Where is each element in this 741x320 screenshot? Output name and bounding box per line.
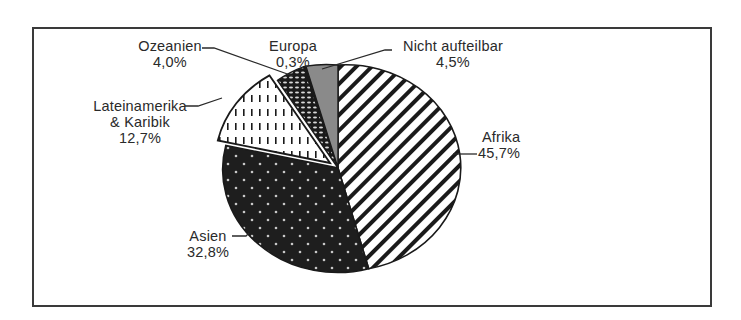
label-lateinamerika-line2: & Karibik xyxy=(88,114,192,130)
label-nicht-value: 4,5% xyxy=(388,54,518,70)
label-nicht-name: Nicht aufteilbar xyxy=(388,38,518,54)
label-afrika-value: 45,7% xyxy=(478,145,538,161)
label-lateinamerika-line1: Lateinamerika xyxy=(88,98,192,114)
label-asien: Asien 32,8% xyxy=(180,228,236,260)
label-ozeanien: Ozeanien 4,0% xyxy=(128,38,212,70)
label-ozeanien-value: 4,0% xyxy=(128,54,212,70)
label-europa-value: 0,3% xyxy=(258,54,328,70)
label-ozeanien-name: Ozeanien xyxy=(128,38,212,54)
label-afrika: Afrika 45,7% xyxy=(478,129,538,161)
label-afrika-name: Afrika xyxy=(478,129,538,145)
label-lateinamerika: Lateinamerika & Karibik 12,7% xyxy=(88,98,192,146)
pie-chart xyxy=(0,0,741,320)
label-europa: Europa 0,3% xyxy=(258,38,328,70)
label-asien-name: Asien xyxy=(180,228,236,244)
label-europa-name: Europa xyxy=(258,38,328,54)
label-lateinamerika-value: 12,7% xyxy=(88,130,192,146)
label-asien-value: 32,8% xyxy=(180,244,236,260)
label-nicht-aufteilbar: Nicht aufteilbar 4,5% xyxy=(388,38,518,70)
